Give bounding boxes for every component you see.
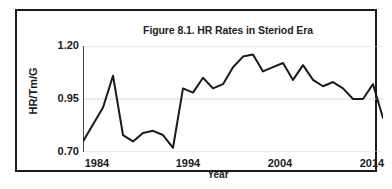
chart-plot-svg	[83, 46, 383, 152]
y-axis-tick-label: 0.70	[35, 145, 79, 157]
y-axis-tick-label: 1.20	[35, 39, 79, 51]
chart-frame: Figure 8.1. HR Rates in Steriod Era 1.20…	[15, 9, 377, 172]
x-axis-tick-label: 2004	[250, 157, 310, 169]
plot-area	[83, 46, 383, 152]
chart-title: Figure 8.1. HR Rates in Steriod Era	[113, 24, 343, 36]
x-axis-tick-label: 2014	[342, 157, 392, 169]
gridlines	[83, 46, 383, 152]
figure-root: Figure 8.1. HR Rates in Steriod Era 1.20…	[0, 0, 392, 189]
x-axis-tick-label: 1994	[158, 157, 218, 169]
y-axis-title: HR/Tm/G	[27, 51, 39, 131]
x-axis-tick-label: 1984	[67, 157, 127, 169]
x-axis-title: Year	[193, 169, 243, 180]
data-series-line	[83, 54, 383, 147]
y-axis-tick-label: 0.95	[35, 92, 79, 104]
